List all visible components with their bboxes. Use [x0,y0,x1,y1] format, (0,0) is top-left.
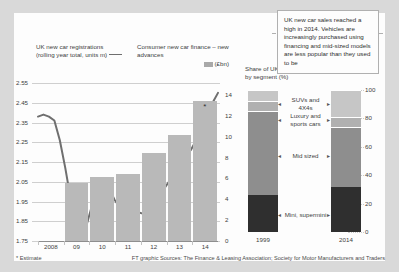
segment-pointer-right: ▸ [327,211,330,218]
left-chart-line-legend: UK new car registrations (rolling year t… [36,43,141,60]
percent-tick: 0 [365,228,385,235]
estimate-asterisk: * [203,104,206,110]
segment-label-text: Mid sized [292,152,318,159]
estimate-footnote: * Estimate [16,255,42,261]
x-tick [192,241,193,245]
left-x-axis-line [38,241,218,242]
percent-tick: 20 [365,200,385,207]
right-chart-title-line2: by segment (%) [245,73,288,80]
x-tick-label: 10 [89,243,115,250]
stack-segment [331,117,361,127]
x-tick [89,241,90,245]
percent-tick: 60 [365,143,385,150]
bar-legend-line1: Consumer new car finance – new advances [137,43,229,58]
right-y-tick: 6 [225,174,241,181]
segment-label: SUVs and4X4s [283,96,328,112]
stack-segment [331,127,361,187]
segment-pointer-left: ◂ [278,100,281,107]
x-tick [64,241,65,245]
segment-pointer-right: ▸ [327,116,330,123]
segment-pointer-left: ◂ [278,152,281,159]
segment-label-text: sports cars [290,120,320,127]
segment-label: Mini, supermini [283,211,328,219]
segment-label-text: Mini, supermini [285,211,327,218]
x-tick-label: 09 [64,243,90,250]
percent-tick: 80 [365,114,385,121]
percent-gridline [348,232,364,233]
callout-connector-left [272,33,276,34]
left-chart-title-line2: (rolling year total, units m) [36,51,107,58]
left-chart-plot [38,83,218,241]
x-tick [115,241,116,245]
right-y-tick: 14 [225,91,241,98]
segment-pointer-left: ◂ [278,211,281,218]
segment-label-text: SUVs and [292,96,320,103]
right-y-tick: 2 [225,216,241,223]
stack-year-label: 2014 [323,236,369,243]
x-tick-label: 11 [115,243,141,250]
right-y-tick: 4 [225,195,241,202]
percent-tick: 100 [365,86,385,93]
finance-bar [65,183,89,241]
segment-pointer-left: ◂ [278,116,281,123]
x-tick-label: 14 [192,243,218,250]
segment-label-text: Luxury and [290,112,321,119]
finance-bar [193,101,217,241]
segment-pointer-right: ▸ [327,100,330,107]
source-footnote: FT graphic Sources: The Finance & Leasin… [132,255,385,261]
finance-bar [116,174,140,241]
stack-segment [248,111,278,195]
bar-legend-line2: (£bn) [215,60,229,67]
finance-bar [168,135,192,241]
segment-stack [331,90,361,232]
segment-pointer-right: ▸ [327,152,330,159]
line-swatch [109,54,122,56]
callout-connector-right [379,33,383,34]
finance-bar [142,153,166,241]
percent-tick: 40 [365,171,385,178]
chart-page: UK new car registrations (rolling year t… [0,0,399,272]
stack-segment [248,101,278,111]
x-tick-label: 13 [167,243,193,250]
x-tick [141,241,142,245]
x-tick-label: 2008 [38,243,64,250]
right-y-tick: 0 [225,237,241,244]
callout-box: UK new car sales reached a high in 2014.… [277,10,379,74]
stack-segment [331,187,361,232]
segment-stack [248,90,278,232]
left-chart-bar-legend: Consumer new car finance – new advances … [137,43,247,68]
x-tick-label: 12 [141,243,167,250]
right-y-tick: 10 [225,133,241,140]
left-chart-title-line1: UK new car registrations [36,43,103,50]
finance-bar [90,177,114,241]
segment-label: Mid sized [283,152,328,160]
right-y-tick: 12 [225,112,241,119]
stack-segment [331,90,361,117]
x-tick [38,241,39,245]
right-y-tick: 8 [225,154,241,161]
bar-swatch [204,62,213,67]
segment-label: Luxury andsports cars [283,112,328,128]
segment-label-text: 4X4s [298,104,312,111]
stack-segment [248,90,278,101]
stack-year-label: 1999 [240,236,286,243]
x-tick [167,241,168,245]
stack-segment [248,195,278,232]
